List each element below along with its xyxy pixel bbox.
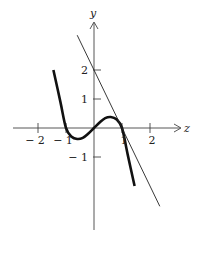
x-tick-label: − 1 xyxy=(53,134,73,147)
y-tick-label: 2 xyxy=(81,64,88,77)
chart: − 2− 11221− 1zy xyxy=(0,0,197,259)
labels: − 2− 11221− 1zy xyxy=(25,7,190,164)
x-tick-label: 1 xyxy=(121,134,128,147)
x-tick-label: − 2 xyxy=(25,134,45,147)
x-tick-label: 2 xyxy=(149,134,156,147)
tangent-line-series xyxy=(77,35,160,206)
y-tick-label: − 1 xyxy=(68,151,88,164)
y-axis-label: y xyxy=(89,7,97,20)
series xyxy=(53,35,159,206)
plot-area: − 2− 11221− 1zy xyxy=(0,0,197,259)
y-tick-label: 1 xyxy=(81,93,88,106)
x-axis-label: z xyxy=(183,122,190,135)
